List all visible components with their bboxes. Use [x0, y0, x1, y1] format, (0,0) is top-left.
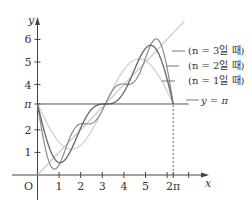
- chart: y x O (n = 3일 때) (n = 2일 때) (n = 1일 때) y…: [0, 0, 252, 209]
- legend-n2: (n = 2일 때): [188, 60, 245, 71]
- x-tick-label: 4: [120, 180, 127, 193]
- y-axis-arrow-icon: [35, 17, 40, 25]
- x-tick-label: 3: [99, 180, 106, 193]
- y-tick-label: 6: [25, 33, 32, 46]
- origin-label: O: [24, 180, 33, 193]
- y-tick-label: 5: [25, 56, 32, 69]
- curves: [38, 21, 189, 175]
- y-tick-label: π: [23, 98, 32, 111]
- x-tick-label: 1: [56, 180, 63, 193]
- legend-n3: (n = 3일 때): [188, 45, 245, 56]
- y-tick-label: 2: [25, 124, 32, 137]
- legend-n1: (n = 1일 때): [188, 75, 245, 86]
- y-tick-label: 1: [25, 146, 32, 159]
- x-tick-label: 5: [142, 180, 149, 193]
- y-tick-label: 4: [25, 79, 32, 92]
- x-tick-label: 2: [77, 180, 84, 193]
- axes: [12, 17, 209, 200]
- series-y-x: [38, 21, 185, 175]
- x-tick-label: 2π: [166, 180, 180, 193]
- y-axis-label: y: [27, 14, 35, 27]
- legend-y-pi: y = π: [200, 95, 228, 106]
- x-axis-label: x: [205, 177, 212, 190]
